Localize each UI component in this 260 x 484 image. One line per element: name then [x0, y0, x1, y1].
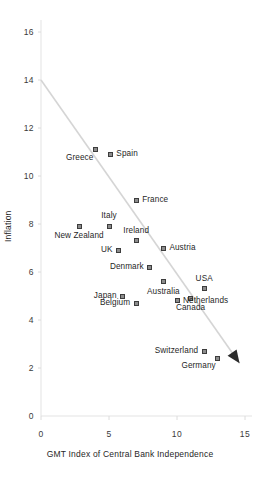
data-point-marker: [202, 349, 207, 354]
data-point-marker: [175, 298, 180, 303]
data-point-marker: [93, 147, 98, 152]
data-point-label: USA: [196, 275, 213, 283]
data-point-marker: [77, 224, 82, 229]
data-point-label: Switzerland: [155, 347, 198, 355]
data-point-label: Netherlands: [183, 297, 228, 305]
x-tick-label: 0: [29, 430, 53, 439]
data-point-label: Denmark: [110, 263, 144, 271]
data-point-marker: [202, 286, 207, 291]
axis-lines: [41, 20, 252, 416]
data-point-marker: [147, 265, 152, 270]
x-tick-marks: [41, 416, 245, 420]
data-point-marker: [134, 238, 139, 243]
data-point-label: Canada: [176, 304, 205, 312]
data-point-marker: [215, 356, 220, 361]
data-point-label: France: [142, 196, 168, 204]
x-tick-label: 15: [233, 430, 257, 439]
data-point-marker: [107, 224, 112, 229]
y-axis-title: Inflation: [4, 196, 13, 256]
y-tick-label: 4: [14, 316, 34, 325]
data-point-label: Germany: [181, 362, 215, 370]
scatter-chart: 024681012141618 051015 PortugalGreeceSpa…: [0, 0, 260, 484]
data-point-label: Ireland: [123, 227, 149, 235]
y-tick-label: 6: [14, 268, 34, 277]
data-point-marker: [134, 301, 139, 306]
y-tick-label: 0: [14, 412, 34, 421]
data-point-marker: [161, 246, 166, 251]
data-point-marker: [108, 152, 113, 157]
trendline: [41, 80, 240, 363]
chart-canvas: [0, 0, 260, 484]
data-point-marker: [161, 279, 166, 284]
y-tick-label: 14: [14, 76, 34, 85]
trendline-arrowhead: [228, 349, 240, 363]
data-point-label: Italy: [101, 212, 117, 220]
x-tick-label: 5: [97, 430, 121, 439]
y-tick-label: 16: [14, 28, 34, 37]
y-tick-label: 2: [14, 364, 34, 373]
x-tick-label: 10: [165, 430, 189, 439]
y-tick-label: 10: [14, 172, 34, 181]
data-point-label: Greece: [66, 153, 93, 161]
data-point-label: New Zealand: [54, 232, 103, 240]
data-point-label: Belgium: [100, 299, 130, 307]
data-point-label: Spain: [116, 150, 137, 158]
y-tick-label: 8: [14, 220, 34, 229]
y-tick-label: 12: [14, 124, 34, 133]
data-point-label: Austria: [169, 244, 195, 252]
x-axis-title: GMT Index of Central Bank Independence: [0, 450, 260, 459]
data-point-label: UK: [101, 246, 113, 254]
data-point-marker: [116, 248, 121, 253]
data-point-marker: [134, 198, 139, 203]
data-point-label: Australia: [147, 288, 180, 296]
